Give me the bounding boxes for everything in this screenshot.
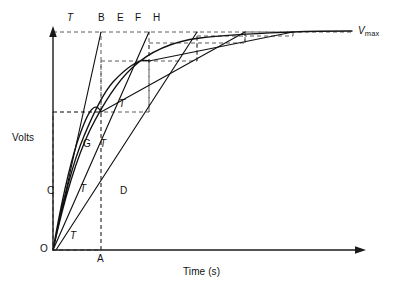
point-label-C: C <box>47 186 54 196</box>
x-axis-label: Time (s) <box>183 267 220 277</box>
point-label-E: E <box>117 13 124 23</box>
time-constant-label-bottom: T <box>70 231 76 241</box>
time-constant-label-cd: T <box>80 184 86 194</box>
staircase-box-1-OADC <box>53 112 101 250</box>
point-label-D: D <box>120 186 127 196</box>
x-axis-arrowhead <box>355 246 366 254</box>
point-label-H: H <box>153 13 160 23</box>
point-label-O: O <box>40 244 48 254</box>
y-axis-label: Volts <box>12 133 34 143</box>
charging-curve <box>53 31 352 250</box>
figure-canvas: Volts Time (s) Vmax O A C D G B E F H T … <box>0 0 394 290</box>
point-label-B: B <box>98 13 105 23</box>
charging-curve-svg <box>0 0 394 290</box>
time-constant-label-g: T <box>100 139 106 149</box>
time-constant-label-mid: T <box>119 99 125 109</box>
vmax-label: Vmax <box>358 26 379 36</box>
point-label-F: F <box>135 13 141 23</box>
staircase-box-3 <box>149 43 197 61</box>
time-constant-label-top: T <box>67 13 73 23</box>
point-label-A: A <box>97 254 104 264</box>
point-label-G: G <box>83 139 91 149</box>
